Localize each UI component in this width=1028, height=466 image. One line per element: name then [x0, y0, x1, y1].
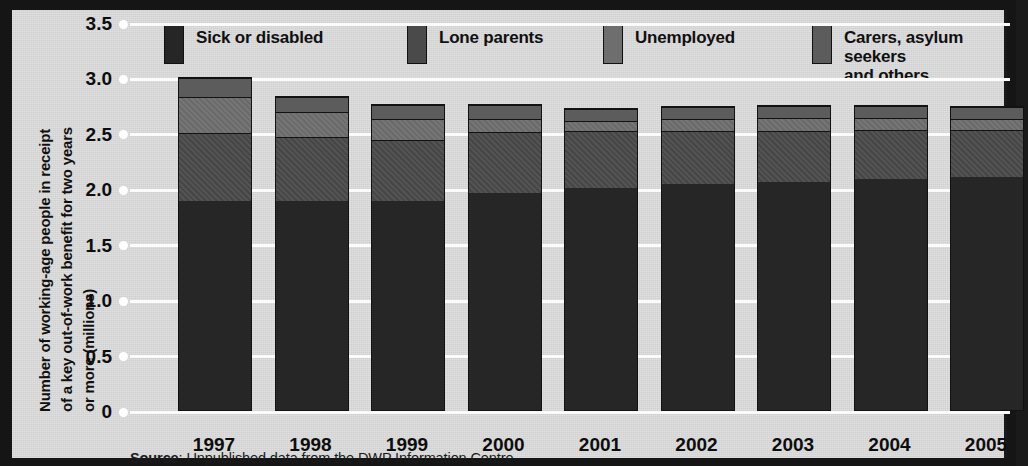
- bar-segment[interactable]: [758, 118, 830, 131]
- y-tick-label: 3.5: [50, 13, 112, 35]
- bar-segment[interactable]: [951, 107, 1023, 119]
- bar-column[interactable]: [757, 105, 831, 411]
- bar-segment[interactable]: [662, 131, 734, 184]
- x-tick-label: 2004: [844, 434, 936, 456]
- bar-segment[interactable]: [855, 106, 927, 118]
- x-tick-label: 2002: [651, 434, 743, 456]
- bar-segment[interactable]: [469, 119, 541, 132]
- bar-segment[interactable]: [662, 184, 734, 409]
- source-label: Source: [130, 450, 179, 466]
- bar-column[interactable]: [564, 108, 638, 410]
- y-tick-label: 0.5: [50, 346, 112, 368]
- bar-segment[interactable]: [855, 118, 927, 130]
- bar-column[interactable]: [371, 104, 445, 411]
- y-axis-title-line2: of a key out-of-work benefit for two yea…: [58, 127, 75, 412]
- source-text: : Unpublished data from the DWP Informat…: [179, 450, 514, 466]
- bar-segment[interactable]: [662, 107, 734, 119]
- bar-segment[interactable]: [565, 121, 637, 131]
- y-tick-dot: [119, 130, 128, 139]
- bar-segment[interactable]: [179, 133, 251, 201]
- bar-column[interactable]: [950, 106, 1024, 411]
- y-tick-dot: [119, 241, 128, 250]
- chart-plate: Sick or disabledLone parentsUnemployedCa…: [12, 10, 1007, 458]
- y-tick-label: 2.5: [50, 124, 112, 146]
- bar-segment[interactable]: [179, 78, 251, 97]
- bar-segment[interactable]: [662, 119, 734, 131]
- plot-area: 00.51.01.52.02.53.03.5199719981999200020…: [130, 24, 1010, 412]
- bar-segment[interactable]: [855, 179, 927, 410]
- y-axis-title-line1: Number of working-age people in receipt: [36, 129, 53, 412]
- y-tick-label: 0: [50, 401, 112, 423]
- bar-column[interactable]: [275, 96, 349, 411]
- bar-segment[interactable]: [469, 105, 541, 119]
- bar-segment[interactable]: [372, 119, 444, 140]
- bar-segment[interactable]: [758, 131, 830, 182]
- bar-segment[interactable]: [565, 131, 637, 188]
- bar-segment[interactable]: [565, 188, 637, 410]
- bar-column[interactable]: [468, 104, 542, 411]
- bar-segment[interactable]: [758, 182, 830, 409]
- x-tick-label: 2001: [554, 434, 646, 456]
- y-tick-label: 2.0: [50, 179, 112, 201]
- bar-segment[interactable]: [758, 106, 830, 118]
- bar-column[interactable]: [178, 77, 252, 410]
- bar-segment[interactable]: [372, 105, 444, 119]
- bar-segment[interactable]: [951, 177, 1023, 410]
- y-gridline: [130, 23, 1010, 26]
- x-axis-baseline: [130, 411, 1010, 414]
- y-tick-dot: [119, 297, 128, 306]
- bar-segment[interactable]: [276, 112, 348, 136]
- bar-column[interactable]: [854, 105, 928, 411]
- bar-segment[interactable]: [469, 132, 541, 193]
- y-tick-label: 3.0: [50, 68, 112, 90]
- bar-segment[interactable]: [372, 201, 444, 409]
- bar-segment[interactable]: [951, 130, 1023, 177]
- bar-segment[interactable]: [372, 140, 444, 201]
- bar-column[interactable]: [661, 106, 735, 411]
- y-tick-dot: [119, 75, 128, 84]
- x-tick-label: 2003: [747, 434, 839, 456]
- x-tick-label: 2005: [940, 434, 1028, 456]
- bar-segment[interactable]: [179, 97, 251, 134]
- y-tick-label: 1.5: [50, 235, 112, 257]
- source-note: Source: Unpublished data from the DWP In…: [130, 450, 513, 466]
- y-tick-dot: [119, 20, 128, 29]
- bar-segment[interactable]: [469, 193, 541, 409]
- bar-segment[interactable]: [565, 109, 637, 121]
- bar-segment[interactable]: [276, 97, 348, 113]
- y-gridline: [130, 78, 1010, 81]
- bar-segment[interactable]: [179, 201, 251, 409]
- bar-segment[interactable]: [951, 119, 1023, 130]
- bar-segment[interactable]: [855, 130, 927, 179]
- y-tick-dot: [119, 352, 128, 361]
- bar-segment[interactable]: [276, 137, 348, 201]
- bar-segment[interactable]: [276, 201, 348, 409]
- y-tick-dot: [119, 186, 128, 195]
- y-tick-label: 1.0: [50, 290, 112, 312]
- y-tick-dot: [119, 408, 128, 417]
